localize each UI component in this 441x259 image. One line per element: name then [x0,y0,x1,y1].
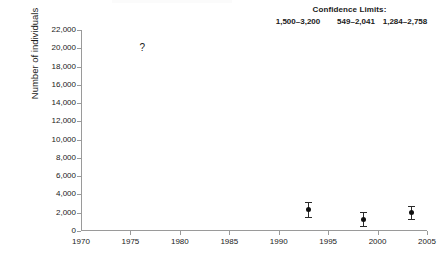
y-axis-tick [77,176,81,177]
error-bar-cap-lower [305,217,312,218]
y-axis-tick [77,103,81,104]
y-axis-tick [77,67,81,68]
chart-figure: Confidence Limits: 1,500–3,200 549–2,041… [0,0,441,259]
y-axis-tick-label: 14,000 [52,99,76,107]
x-axis-tick [378,231,379,235]
y-axis-tick-label: 2,000 [56,209,76,217]
x-axis-tick [229,231,230,235]
confidence-limit-value-1: 1,500–3,200 [276,16,321,27]
x-axis-tick-label: 1985 [220,237,238,246]
x-axis-tick-label: 1980 [171,237,189,246]
x-axis-tick [427,231,428,235]
y-axis-line [81,30,82,231]
x-axis-tick-label: 1975 [122,237,140,246]
x-axis-tick-label: 1990 [270,237,288,246]
y-axis-tick-labels: 02,0004,0006,0008,00010,00012,00014,0001… [28,30,76,231]
plot-area: ? [81,30,427,231]
y-axis-tick [77,121,81,122]
y-axis-tick-label: 8,000 [56,154,76,162]
x-axis-tick-labels: 19701975198019851990199520002005 [81,237,427,249]
y-axis-tick-label: 0 [72,227,76,235]
y-axis-tick-label: 16,000 [52,81,76,89]
y-axis-tick-label: 20,000 [52,44,76,52]
x-axis-tick [180,231,181,235]
y-axis-tick-label: 22,000 [52,26,76,34]
x-axis-tick-label: 1995 [319,237,337,246]
y-axis-tick-label: 6,000 [56,172,76,180]
data-point-marker [306,207,311,212]
confidence-limits-header: Confidence Limits: 1,500–3,200 549–2,041… [258,5,441,27]
y-axis-tick [77,30,81,31]
data-point-marker [361,217,366,222]
error-bar-cap-upper [360,212,367,213]
y-axis-tick-label: 10,000 [52,136,76,144]
y-axis-tick [77,231,81,232]
data-point-marker [409,210,414,215]
error-bar-cap-upper [305,202,312,203]
unknown-value-annotation: ? [140,43,146,53]
error-bar-cap-upper [408,206,415,207]
confidence-limit-value-3: 1,284–2,758 [383,16,428,27]
y-axis-tick [77,48,81,49]
confidence-limit-value-2: 549–2,041 [337,16,375,27]
x-axis-tick [279,231,280,235]
y-axis-tick-label: 12,000 [52,117,76,125]
y-axis-tick [77,85,81,86]
error-bar-cap-lower [360,226,367,227]
y-axis-tick [77,158,81,159]
cropped-title-artifact [112,0,232,3]
x-axis-tick [130,231,131,235]
x-axis-tick-label: 2005 [418,237,436,246]
x-axis-tick [328,231,329,235]
confidence-limits-values: 1,500–3,200 549–2,041 1,284–2,758 [258,16,441,27]
x-axis-tick-label: 2000 [369,237,387,246]
error-bar-cap-lower [408,219,415,220]
y-axis-tick-label: 4,000 [56,190,76,198]
y-axis-tick [77,213,81,214]
y-axis-tick-label: 18,000 [52,63,76,71]
x-axis-line [81,230,427,231]
y-axis-tick [77,140,81,141]
confidence-limits-title: Confidence Limits: [258,5,441,15]
x-axis-tick-label: 1970 [72,237,90,246]
y-axis-tick [77,194,81,195]
